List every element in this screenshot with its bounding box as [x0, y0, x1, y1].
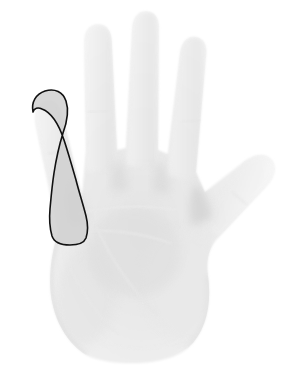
palm-hollow-shading: [88, 208, 180, 296]
crease-ring-pip: [88, 111, 108, 112]
image-canvas: ring-finger 4 open-left-hand-palm palmar: [0, 0, 293, 368]
hand-illustration: [0, 0, 293, 368]
